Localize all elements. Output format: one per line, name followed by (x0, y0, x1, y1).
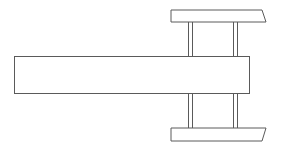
main-beam (15, 57, 250, 94)
top-bar (171, 10, 266, 22)
structural-diagram (0, 0, 285, 152)
bottom-bar (171, 128, 266, 141)
